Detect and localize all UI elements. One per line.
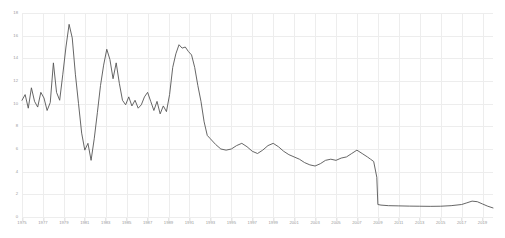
x-tick-label: 1975 bbox=[17, 221, 26, 225]
x-tick-label: 1993 bbox=[206, 221, 215, 225]
x-tick-mark bbox=[210, 218, 211, 221]
x-tick-label: 1991 bbox=[185, 221, 194, 225]
y-tick-label: 18 bbox=[13, 11, 18, 15]
x-tick-mark bbox=[483, 218, 484, 221]
x-tick-mark bbox=[399, 218, 400, 221]
series-polyline bbox=[22, 24, 493, 208]
x-tick-mark bbox=[127, 218, 128, 221]
x-tick-label: 1977 bbox=[38, 221, 47, 225]
x-tick-label: 1985 bbox=[122, 221, 131, 225]
x-tick-mark bbox=[357, 218, 358, 221]
series-line-value bbox=[22, 13, 493, 217]
y-tick-label: 2 bbox=[16, 192, 18, 196]
x-tick-label: 1987 bbox=[143, 221, 152, 225]
x-tick-mark bbox=[106, 218, 107, 221]
x-tick-mark bbox=[336, 218, 337, 221]
y-tick-label: 14 bbox=[13, 56, 18, 60]
x-tick-mark bbox=[273, 218, 274, 221]
x-tick-mark bbox=[43, 218, 44, 221]
gridline-horizontal bbox=[22, 217, 493, 218]
y-tick-label: 6 bbox=[16, 147, 18, 151]
x-tick-mark bbox=[315, 218, 316, 221]
line-chart: 024681012141618 197519771979198119831985… bbox=[0, 0, 505, 238]
x-tick-label: 1989 bbox=[164, 221, 173, 225]
x-tick-label: 2009 bbox=[373, 221, 382, 225]
x-tick-label: 2011 bbox=[394, 221, 403, 225]
x-tick-mark bbox=[462, 218, 463, 221]
x-tick-mark bbox=[189, 218, 190, 221]
x-tick-label: 1981 bbox=[80, 221, 89, 225]
y-tick-label: 10 bbox=[13, 102, 18, 106]
x-tick-label: 2001 bbox=[289, 221, 298, 225]
x-tick-mark bbox=[169, 218, 170, 221]
y-tick-label: 16 bbox=[13, 34, 18, 38]
x-tick-label: 2007 bbox=[352, 221, 361, 225]
y-axis: 024681012141618 bbox=[0, 13, 18, 217]
x-tick-label: 1999 bbox=[269, 221, 278, 225]
x-tick-label: 2005 bbox=[331, 221, 340, 225]
x-axis: 1975197719791981198319851987198919911993… bbox=[22, 221, 493, 231]
x-tick-mark bbox=[294, 218, 295, 221]
plot-area bbox=[22, 13, 493, 217]
x-tick-label: 1997 bbox=[248, 221, 257, 225]
x-tick-mark bbox=[441, 218, 442, 221]
x-tick-mark bbox=[231, 218, 232, 221]
x-tick-label: 2015 bbox=[436, 221, 445, 225]
x-tick-label: 1983 bbox=[101, 221, 110, 225]
x-tick-mark bbox=[22, 218, 23, 221]
x-tick-mark bbox=[420, 218, 421, 221]
x-tick-label: 2013 bbox=[415, 221, 424, 225]
y-tick-label: 0 bbox=[16, 215, 18, 219]
x-tick-mark bbox=[64, 218, 65, 221]
x-tick-label: 2003 bbox=[310, 221, 319, 225]
x-tick-mark bbox=[252, 218, 253, 221]
y-tick-label: 4 bbox=[16, 170, 18, 174]
x-tick-label: 1995 bbox=[227, 221, 236, 225]
x-tick-label: 1979 bbox=[59, 221, 68, 225]
x-tick-mark bbox=[148, 218, 149, 221]
y-tick-label: 8 bbox=[16, 124, 18, 128]
x-tick-label: 2017 bbox=[457, 221, 466, 225]
x-tick-label: 2019 bbox=[478, 221, 487, 225]
y-tick-label: 12 bbox=[13, 79, 18, 83]
x-tick-mark bbox=[85, 218, 86, 221]
x-tick-mark bbox=[378, 218, 379, 221]
